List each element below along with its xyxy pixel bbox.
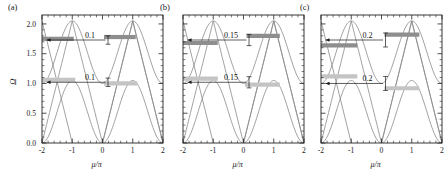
y-tick-label: 0.5 (27, 109, 37, 118)
band-curve-extra-2 (412, 21, 442, 143)
band-curve-2 (321, 80, 382, 143)
band-curves (321, 21, 442, 143)
x-tick-label: -2 (180, 146, 187, 155)
figure-root: (a)0.10.1-2-10120.00.51.01.52.0μ/πΩ(b)0.… (0, 0, 448, 177)
x-tick-label: -2 (318, 146, 325, 155)
x-axis-label-c: μ/π (371, 160, 381, 169)
y-axis-label: Ω (8, 78, 18, 85)
band-curve-2 (42, 80, 103, 143)
x-tick-label: -2 (39, 146, 46, 155)
gap-value-label: 0.15 (224, 73, 238, 82)
band-curve-4 (321, 21, 382, 143)
band-curve-extra-1 (244, 21, 274, 143)
y-tick-label: 0.0 (27, 139, 37, 148)
band-curve-5 (382, 21, 443, 143)
x-tick-label: 0 (101, 146, 105, 155)
x-axis-label-b: μ/π (233, 160, 243, 169)
plot-area-c: 0.20.2-2-1012 (283, 0, 448, 177)
x-axis-label-a: μ/π (92, 160, 102, 169)
x-tick-label: 2 (440, 146, 444, 155)
gap-value-label: 0.2 (362, 31, 372, 40)
x-tick-label: -1 (69, 146, 76, 155)
gap-value-label: 0.15 (224, 31, 238, 40)
x-tick-label: -1 (210, 146, 217, 155)
x-tick-label: 1 (410, 146, 414, 155)
x-tick-label: 1 (131, 146, 135, 155)
x-tick-label: 0 (380, 146, 384, 155)
gap-arrow-head (188, 80, 192, 84)
plot-frame (321, 15, 442, 143)
y-tick-label: 1.0 (27, 79, 37, 88)
gap-value-label: 0.2 (362, 74, 372, 83)
y-tick-label: 1.5 (27, 49, 37, 58)
x-tick-label: -1 (348, 146, 355, 155)
gap-value-label: 0.1 (85, 31, 95, 40)
band-curve-1 (382, 21, 443, 84)
band-curve-2 (183, 80, 244, 143)
band-curve-0 (321, 21, 382, 84)
x-tick-label: 0 (242, 146, 246, 155)
x-tick-label: 1 (272, 146, 276, 155)
y-tick-label: 2.0 (27, 20, 37, 29)
gap-arrow-head (326, 82, 330, 86)
gap-value-label: 0.1 (85, 73, 95, 82)
band-curve-extra-1 (382, 21, 412, 143)
plot-group-c: 0.20.2-2-1012 (318, 15, 444, 155)
